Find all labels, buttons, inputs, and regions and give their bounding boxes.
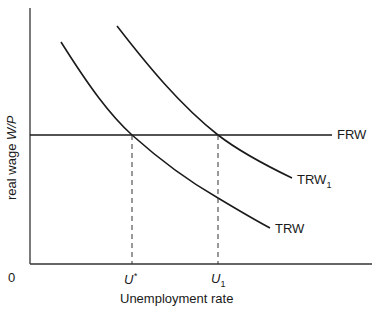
- trw1-base: TRW: [297, 172, 326, 187]
- ustar-mark: *: [133, 271, 137, 281]
- trw1-sub: 1: [326, 180, 331, 190]
- y-axis-label: real wage W/P: [4, 115, 19, 200]
- trw-label: TRW: [275, 221, 304, 236]
- ustar-tick-label: U*: [124, 271, 137, 287]
- origin-label: 0: [8, 270, 15, 285]
- y-axis-label-var: W/P: [4, 115, 19, 140]
- chart-canvas: [0, 0, 379, 319]
- trw1-curve: [117, 26, 292, 178]
- trw1-label: TRW1: [297, 172, 331, 190]
- u1-tick-label: U1: [211, 271, 225, 289]
- y-axis-label-text: real wage: [4, 140, 19, 200]
- frw-label: FRW: [337, 127, 366, 142]
- u1-base: U: [211, 271, 220, 286]
- x-axis-label: Unemployment rate: [120, 291, 233, 306]
- u1-sub: 1: [220, 279, 225, 289]
- ustar-base: U: [124, 272, 133, 287]
